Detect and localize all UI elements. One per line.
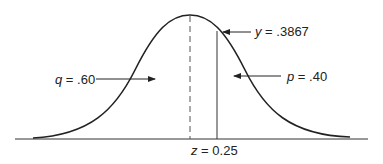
q-value: = .60 xyxy=(62,72,95,87)
z-value: = 0.25 xyxy=(198,143,238,158)
z-label: z = 0.25 xyxy=(191,144,238,157)
y-value: = .3867 xyxy=(262,24,309,39)
p-value: = .40 xyxy=(294,69,327,84)
p-label: p = .40 xyxy=(287,70,327,83)
q-label: q = .60 xyxy=(55,73,95,86)
y-label: y = .3867 xyxy=(255,25,309,38)
